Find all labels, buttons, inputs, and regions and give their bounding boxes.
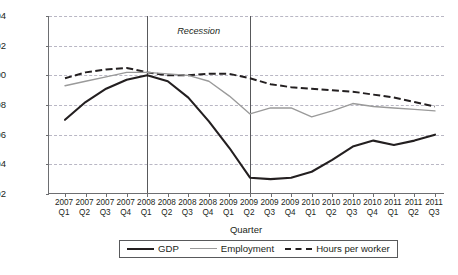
y-tick-mark: [46, 194, 50, 195]
legend-item-hours-per-worker: Hours per worker: [285, 243, 390, 254]
y-tick-label: 100: [0, 70, 6, 80]
legend-item-gdp: GDP: [127, 243, 179, 254]
x-tick-label: 2011Q3: [417, 198, 451, 218]
legend-label-gdp: GDP: [158, 243, 179, 254]
y-tick-label: 98: [0, 100, 6, 110]
y-tick-label: 92: [0, 189, 6, 199]
legend-swatch-employment: [190, 248, 217, 249]
legend-item-employment: Employment: [190, 243, 274, 254]
chart-legend: GDP Employment Hours per worker: [119, 240, 398, 258]
figure-gdp-employment-hours: 2008Q1=100 Recession 92949698100102104 2…: [0, 0, 458, 275]
x-axis-title: Quarter: [48, 224, 444, 235]
series-line-gdp: [65, 75, 435, 179]
y-tick-label: 104: [0, 11, 6, 21]
legend-swatch-hours-per-worker: [285, 248, 312, 250]
y-tick-label: 94: [0, 159, 6, 169]
series-lines: [49, 16, 445, 194]
legend-label-employment: Employment: [221, 243, 274, 254]
legend-label-hours-per-worker: Hours per worker: [316, 243, 390, 254]
legend-swatch-gdp: [127, 248, 154, 250]
plot-area: Recession: [48, 16, 444, 194]
y-tick-label: 96: [0, 130, 6, 140]
y-tick-label: 102: [0, 41, 6, 51]
